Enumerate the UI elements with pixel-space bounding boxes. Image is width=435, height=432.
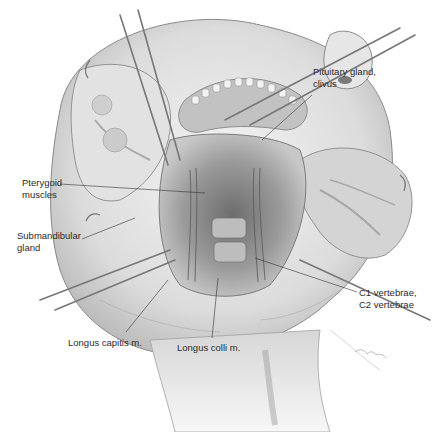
label-pituitary-gland-clivus: Pituitary gland, clivus xyxy=(313,66,376,89)
label-pterygoid-muscles: Pterygoid muscles xyxy=(22,177,62,200)
label-longus-colli: Longus colli m. xyxy=(177,342,240,354)
illustration-drawing xyxy=(0,0,435,432)
label-longus-capitis: Longus capitis m. xyxy=(68,337,142,349)
anatomical-illustration: Pituitary gland, clivus Pterygoid muscle… xyxy=(0,0,435,432)
label-c1-c2-vertebrae: C1 vertebrae, C2 vertebrae xyxy=(359,287,417,310)
label-submandibular-gland: Submandibular gland xyxy=(17,230,81,253)
